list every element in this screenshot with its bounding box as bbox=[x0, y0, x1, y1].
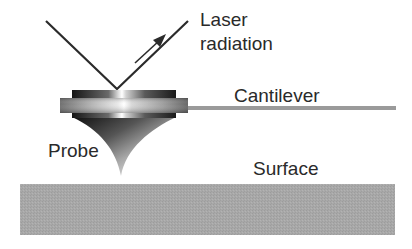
probe-holder bbox=[60, 90, 188, 118]
surface-label: Surface bbox=[253, 159, 318, 178]
cantilever-label: Cantilever bbox=[234, 86, 320, 105]
sample-surface bbox=[20, 184, 395, 235]
cantilever-beam bbox=[186, 106, 396, 110]
probe-label: Probe bbox=[48, 141, 99, 160]
laser-beam bbox=[46, 21, 188, 89]
laser-label-line2: radiation bbox=[200, 34, 273, 53]
laser-label-line1: Laser bbox=[200, 10, 248, 29]
reflection-arrow-icon bbox=[135, 34, 166, 63]
